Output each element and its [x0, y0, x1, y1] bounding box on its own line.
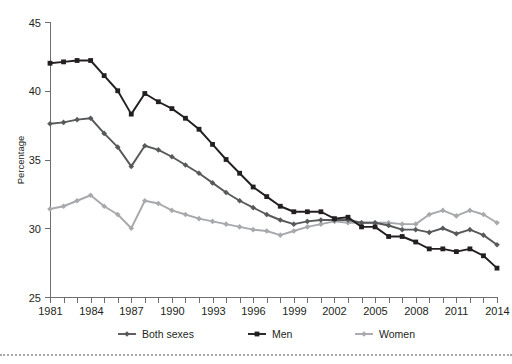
- legend-item-women[interactable]: Women: [355, 328, 415, 340]
- data-point-marker: [250, 227, 256, 233]
- data-point-marker: [413, 227, 419, 233]
- data-point-marker: [74, 117, 80, 123]
- data-point-marker: [361, 331, 367, 337]
- data-point-marker: [386, 234, 391, 239]
- x-axis-tick-label: 1981: [38, 305, 62, 317]
- data-point-marker: [197, 127, 202, 132]
- data-point-marker: [440, 208, 446, 214]
- chart-legend: Both sexesMenWomen: [118, 328, 415, 340]
- series-both-sexes: [47, 115, 500, 247]
- data-point-marker: [278, 204, 283, 209]
- data-point-marker: [319, 209, 324, 214]
- data-point-marker: [264, 228, 270, 234]
- line-chart: 2530354045 19811984198719901993199619992…: [0, 0, 512, 364]
- data-point-marker: [183, 116, 188, 121]
- data-point-marker: [277, 217, 283, 223]
- data-point-marker: [413, 240, 418, 245]
- data-point-marker: [467, 208, 473, 214]
- data-point-marker: [467, 227, 473, 233]
- data-point-marker: [129, 112, 134, 117]
- data-point-marker: [264, 194, 269, 199]
- data-point-marker: [75, 58, 80, 63]
- x-axis: 1981198419871990199319961999200220052008…: [38, 297, 509, 317]
- data-point-marker: [61, 120, 67, 126]
- data-point-marker: [115, 88, 120, 93]
- x-axis-tick-label: 1987: [119, 305, 143, 317]
- data-point-marker: [440, 225, 446, 231]
- data-point-marker: [183, 212, 189, 218]
- data-point-marker: [399, 221, 405, 227]
- data-point-marker: [61, 203, 67, 209]
- data-point-marker: [440, 246, 445, 251]
- bottom-dotted-rule: [0, 354, 512, 356]
- data-point-marker: [237, 171, 242, 176]
- data-point-marker: [47, 121, 53, 127]
- data-point-marker: [400, 234, 405, 239]
- x-axis-tick-label: 1999: [282, 305, 306, 317]
- data-point-marker: [61, 59, 66, 64]
- legend-item-men[interactable]: Men: [248, 328, 293, 340]
- y-axis-tick-label: 40: [29, 85, 41, 97]
- y-axis-title: Percentage: [15, 136, 26, 185]
- data-point-marker: [495, 266, 500, 271]
- x-axis-tick-label: 2002: [322, 305, 346, 317]
- legend-label: Men: [272, 328, 293, 340]
- data-point-marker: [74, 198, 80, 204]
- x-axis-tick-label: 2011: [445, 305, 469, 317]
- data-point-marker: [251, 185, 256, 190]
- data-point-marker: [481, 253, 486, 258]
- data-point-marker: [454, 213, 460, 219]
- data-point-marker: [318, 217, 324, 223]
- data-point-marker: [124, 331, 130, 337]
- series-men: [48, 58, 500, 270]
- y-axis-tick-label: 45: [29, 17, 41, 29]
- data-point-marker: [427, 246, 432, 251]
- series-layer: [47, 58, 500, 270]
- data-point-marker: [291, 209, 296, 214]
- data-point-marker: [142, 91, 147, 96]
- data-point-marker: [359, 224, 364, 229]
- y-axis-tick-label: 30: [29, 223, 41, 235]
- y-axis-tick-label: 25: [29, 292, 41, 304]
- data-point-marker: [48, 61, 53, 66]
- x-axis-tick-label: 1993: [201, 305, 225, 317]
- data-point-marker: [223, 221, 229, 227]
- x-axis-tick-label: 2005: [363, 305, 387, 317]
- data-point-marker: [426, 230, 432, 236]
- data-point-marker: [156, 99, 161, 104]
- legend-label: Women: [379, 328, 415, 340]
- data-point-marker: [210, 142, 215, 147]
- x-axis-tick-label: 1984: [79, 305, 103, 317]
- data-point-marker: [47, 206, 53, 212]
- data-point-marker: [346, 215, 351, 220]
- data-point-marker: [399, 227, 405, 233]
- y-axis: 2530354045: [29, 17, 51, 304]
- data-point-marker: [373, 224, 378, 229]
- data-point-marker: [237, 224, 243, 230]
- chart-figure: 2530354045 19811984198719901993199619992…: [0, 0, 512, 364]
- y-axis-tick-label: 35: [29, 154, 41, 166]
- data-point-marker: [468, 246, 473, 251]
- data-point-marker: [255, 332, 260, 337]
- data-point-marker: [88, 58, 93, 63]
- legend-item-both-sexes[interactable]: Both sexes: [118, 328, 194, 340]
- x-axis-tick-label: 2014: [485, 305, 509, 317]
- data-point-marker: [454, 249, 459, 254]
- data-point-marker: [277, 232, 283, 238]
- series-line: [50, 118, 497, 245]
- data-point-marker: [454, 231, 460, 237]
- data-point-marker: [291, 228, 297, 234]
- x-axis-tick-label: 1990: [160, 305, 184, 317]
- data-point-marker: [305, 209, 310, 214]
- data-point-marker: [305, 224, 311, 230]
- x-axis-tick-label: 2008: [404, 305, 428, 317]
- data-point-marker: [170, 106, 175, 111]
- data-point-marker: [291, 221, 297, 227]
- x-axis-tick-label: 1996: [241, 305, 265, 317]
- data-point-marker: [210, 219, 216, 225]
- data-point-marker: [102, 73, 107, 78]
- data-point-marker: [196, 216, 202, 222]
- data-point-marker: [224, 157, 229, 162]
- data-point-marker: [305, 219, 311, 225]
- data-point-marker: [332, 216, 337, 221]
